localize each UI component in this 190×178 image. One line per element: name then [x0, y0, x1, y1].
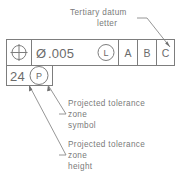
zone-symbol-label-line3: symbol: [68, 121, 96, 130]
datum-a-letter: A: [124, 47, 131, 59]
gdt-diagram: Tertiary datum letter Ø .005: [0, 0, 190, 178]
tertiary-datum-label-line2: letter: [97, 19, 117, 28]
tertiary-datum-label-line1: Tertiary datum: [70, 8, 127, 17]
lmc-modifier-icon: L: [98, 45, 114, 61]
datum-c-letter: C: [162, 47, 170, 59]
diameter-symbol: Ø: [36, 46, 46, 61]
feature-control-frame: Ø .005 L A B C: [7, 40, 175, 66]
lmc-modifier-letter: L: [103, 48, 108, 58]
projected-tolerance-frame: 24 P: [7, 66, 53, 86]
zone-symbol-label-line2: zone: [68, 110, 87, 119]
leader-line-tertiary-datum: [137, 18, 170, 47]
zone-height-label-line2: zone: [68, 151, 87, 160]
position-symbol-icon: [11, 44, 28, 61]
tolerance-value: .005: [48, 46, 74, 61]
projected-tolerance-height: 24: [10, 69, 25, 84]
zone-height-label-line1: Projected tolerance: [68, 140, 145, 149]
projected-tolerance-symbol: P: [30, 67, 48, 85]
leader-line-zone-symbol: [48, 85, 66, 114]
leader-line-zone-height: [29, 85, 66, 155]
zone-symbol-label-line1: Projected tolerance: [68, 99, 145, 108]
projected-tolerance-symbol-letter: P: [36, 71, 42, 81]
datum-b-letter: B: [143, 47, 150, 59]
zone-height-label-line3: height: [68, 162, 93, 171]
